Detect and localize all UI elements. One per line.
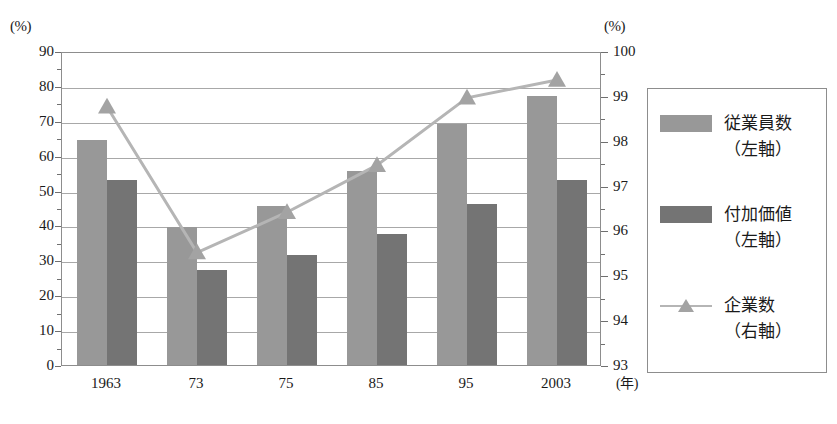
right-axis-tick-mark xyxy=(601,187,608,188)
right-axis-tick-label: 96 xyxy=(613,223,628,238)
legend-label-value-added-text: 付加価値 xyxy=(724,205,792,224)
legend-label-firms: 企業数 （右軸） xyxy=(724,293,796,346)
legend-label-employees-text: 従業員数 xyxy=(724,114,792,133)
left-axis-tick-mark xyxy=(55,157,61,158)
line-series-firms xyxy=(62,53,602,367)
right-axis-tick-label: 94 xyxy=(613,313,628,328)
left-axis-tick-label: 20 xyxy=(39,288,54,303)
legend-item-value-added[interactable]: 付加価値 （左軸） xyxy=(648,202,826,255)
right-axis-tick-label: 100 xyxy=(613,44,636,59)
left-axis-tick-label: 90 xyxy=(39,44,54,59)
right-axis-tick-mark xyxy=(601,276,608,277)
legend-label-employees-axis: （左軸） xyxy=(724,137,796,163)
legend-label-firms-axis: （右軸） xyxy=(724,319,796,345)
right-axis-tick-mark xyxy=(601,97,608,98)
legend-label-value-added-axis: （左軸） xyxy=(724,228,796,254)
firms-marker-triangle-icon xyxy=(548,71,566,87)
x-axis-tick-label: 95 xyxy=(421,376,511,391)
left-axis-minor-tick xyxy=(57,349,61,350)
chart-legend: 従業員数 （左軸） 付加価値 （左軸） 企業数 （右軸） xyxy=(647,88,827,373)
left-axis-tick-mark xyxy=(55,52,61,53)
right-axis-minor-tick xyxy=(601,164,605,165)
left-axis-tick-mark xyxy=(55,331,61,332)
left-axis-tick-mark xyxy=(55,122,61,123)
right-axis-tick-label: 99 xyxy=(613,89,628,104)
right-axis-tick-mark xyxy=(601,366,608,367)
left-axis-minor-tick xyxy=(57,139,61,140)
legend-swatch-value-added-icon xyxy=(660,206,712,223)
firms-marker-triangle-icon xyxy=(278,203,296,219)
left-axis-tick-label: 10 xyxy=(39,323,54,338)
left-axis-minor-tick xyxy=(57,244,61,245)
right-axis-tick-mark xyxy=(601,231,608,232)
right-axis-minor-tick xyxy=(601,299,605,300)
firms-marker-triangle-icon xyxy=(188,244,206,260)
left-axis-tick-label: 80 xyxy=(39,79,54,94)
legend-marker-firms-icon xyxy=(660,297,712,314)
right-axis-tick-label: 95 xyxy=(613,268,628,283)
right-axis-minor-tick xyxy=(601,119,605,120)
firms-marker-triangle-icon xyxy=(98,98,116,114)
left-axis-tick-label: 30 xyxy=(39,253,54,268)
left-axis-minor-tick xyxy=(57,104,61,105)
left-axis-tick-label: 40 xyxy=(39,218,54,233)
x-axis-tick-label: 75 xyxy=(241,376,331,391)
right-axis-minor-tick xyxy=(601,74,605,75)
left-axis-tick-mark xyxy=(55,87,61,88)
x-axis-tick-label: 85 xyxy=(331,376,421,391)
left-axis-tick-mark xyxy=(55,366,61,367)
right-axis-tick-label: 98 xyxy=(613,134,628,149)
left-axis-tick-label: 50 xyxy=(39,184,54,199)
legend-item-employees[interactable]: 従業員数 （左軸） xyxy=(648,111,826,164)
chart-canvas: (%) (%) (年) 0102030405060708090 93949596… xyxy=(0,0,837,424)
right-axis-tick-mark xyxy=(601,142,608,143)
left-axis-unit-label: (%) xyxy=(10,18,31,35)
x-axis-tick-label: 1963 xyxy=(61,376,151,391)
right-axis-minor-tick xyxy=(601,344,605,345)
left-axis-minor-tick xyxy=(57,314,61,315)
legend-label-value-added: 付加価値 （左軸） xyxy=(724,202,796,255)
x-axis-tick-label: 2003 xyxy=(511,376,601,391)
left-axis-tick-mark xyxy=(55,296,61,297)
legend-item-firms[interactable]: 企業数 （右軸） xyxy=(648,293,826,346)
left-axis-minor-tick xyxy=(57,279,61,280)
x-axis-unit-label: (年) xyxy=(616,372,638,392)
right-axis-minor-tick xyxy=(601,254,605,255)
plot-area xyxy=(61,52,601,366)
left-axis-tick-label: 70 xyxy=(39,114,54,129)
left-axis-tick-label: 60 xyxy=(39,149,54,164)
firms-line-path xyxy=(107,80,557,253)
legend-label-firms-text: 企業数 xyxy=(724,296,775,315)
left-axis-minor-tick xyxy=(57,69,61,70)
firms-marker-triangle-icon xyxy=(368,156,386,172)
left-axis-tick-mark xyxy=(55,192,61,193)
left-axis-tick-label: 0 xyxy=(47,358,55,373)
right-axis-tick-mark xyxy=(601,52,608,53)
right-axis-tick-label: 97 xyxy=(613,179,628,194)
right-axis-tick-mark xyxy=(601,321,608,322)
legend-triangle-firms-icon xyxy=(678,299,694,312)
left-axis-minor-tick xyxy=(57,174,61,175)
right-axis-tick-label: 93 xyxy=(613,358,628,373)
left-axis-tick-mark xyxy=(55,226,61,227)
left-axis-minor-tick xyxy=(57,209,61,210)
left-axis-tick-mark xyxy=(55,261,61,262)
legend-swatch-employees-icon xyxy=(660,115,712,132)
legend-label-employees: 従業員数 （左軸） xyxy=(724,111,796,164)
right-axis-minor-tick xyxy=(601,209,605,210)
x-axis-tick-label: 73 xyxy=(151,376,241,391)
right-axis-unit-label: (%) xyxy=(604,18,625,35)
